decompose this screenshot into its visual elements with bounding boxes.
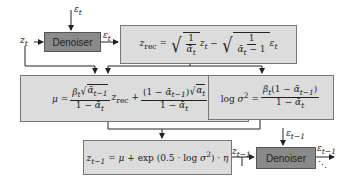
eps-t-output-label: εt [103,30,111,43]
z-rec-equation-box: zrec = √1ᾱt zt − √1ᾱt − 1 εt [120,25,297,64]
eps-t-minus-1-input-label: εt−1 [286,128,305,141]
log-sigma-equation-box: log σ2 = βt(1 − ᾱt−1)1 − ᾱt [208,75,334,120]
eps-t-minus-1-output-label: εt−1 [317,143,336,156]
denoiser-label: Denoiser [52,37,92,48]
denoiser-block-2: Denoiser [256,147,316,169]
continuation-ellipsis: ⋱ [318,160,327,170]
z-t-input-label: zt [20,35,28,48]
eps-t-input-label: εt [74,4,82,17]
denoiser-label: Denoiser [266,153,306,164]
denoiser-block-1: Denoiser [44,32,101,52]
z-t-minus-1-label: zt−1 [232,146,251,159]
z-next-equation-box: zt−1 = μ + exp (0.5 · log σ2) · η [83,140,232,175]
